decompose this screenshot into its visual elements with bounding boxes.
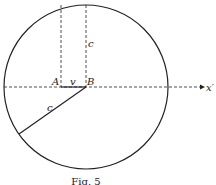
label-c-vertical: c: [88, 38, 94, 49]
label-b: B: [86, 76, 94, 87]
figure-5-diagram: A v B c c x′ Fig. 5: [0, 0, 216, 185]
label-a: A: [51, 76, 59, 87]
axis-arrowhead-icon: [200, 85, 205, 90]
figure-caption: Fig. 5: [71, 176, 100, 185]
label-v: v: [70, 76, 76, 87]
label-axis: x′: [206, 82, 215, 93]
label-c-radius: c: [47, 102, 53, 113]
